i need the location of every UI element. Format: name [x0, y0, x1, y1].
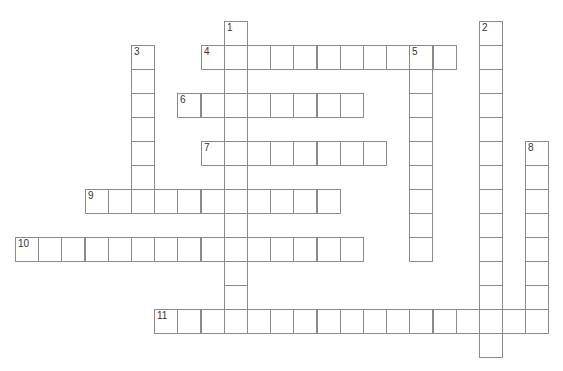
- crossword-cell[interactable]: [108, 189, 132, 214]
- crossword-cell[interactable]: [131, 141, 155, 166]
- crossword-cell[interactable]: [479, 141, 503, 166]
- crossword-cell[interactable]: [479, 237, 503, 262]
- crossword-cell[interactable]: [479, 213, 503, 238]
- crossword-cell[interactable]: [224, 285, 248, 310]
- crossword-cell[interactable]: [340, 45, 364, 70]
- crossword-cell[interactable]: [479, 333, 503, 358]
- crossword-cell[interactable]: [247, 45, 271, 70]
- crossword-cell[interactable]: [293, 189, 317, 214]
- crossword-cell[interactable]: [479, 261, 503, 286]
- crossword-cell[interactable]: [409, 93, 433, 118]
- crossword-cell[interactable]: [293, 141, 317, 166]
- crossword-cell[interactable]: [363, 309, 387, 334]
- crossword-cell[interactable]: [409, 69, 433, 94]
- crossword-cell[interactable]: [317, 45, 341, 70]
- crossword-cell[interactable]: [131, 69, 155, 94]
- crossword-cell[interactable]: [177, 189, 201, 214]
- crossword-cell[interactable]: [201, 309, 225, 334]
- crossword-cell[interactable]: 1: [224, 21, 248, 46]
- crossword-cell[interactable]: [224, 93, 248, 118]
- crossword-cell[interactable]: [224, 69, 248, 94]
- crossword-cell[interactable]: [525, 189, 549, 214]
- crossword-cell[interactable]: [525, 309, 549, 334]
- crossword-cell[interactable]: [131, 165, 155, 190]
- crossword-cell[interactable]: [433, 309, 457, 334]
- crossword-cell[interactable]: [340, 93, 364, 118]
- crossword-cell[interactable]: [479, 117, 503, 142]
- crossword-cell[interactable]: [409, 309, 433, 334]
- crossword-cell[interactable]: [293, 45, 317, 70]
- crossword-cell[interactable]: [270, 237, 294, 262]
- crossword-cell[interactable]: 6: [177, 93, 201, 118]
- crossword-cell[interactable]: [293, 237, 317, 262]
- crossword-cell[interactable]: [247, 93, 271, 118]
- crossword-cell[interactable]: [293, 309, 317, 334]
- crossword-cell[interactable]: [177, 309, 201, 334]
- crossword-cell[interactable]: [502, 309, 526, 334]
- crossword-cell[interactable]: [270, 141, 294, 166]
- crossword-cell[interactable]: [340, 309, 364, 334]
- crossword-cell[interactable]: [154, 189, 178, 214]
- crossword-cell[interactable]: [224, 141, 248, 166]
- crossword-cell[interactable]: [386, 45, 410, 70]
- crossword-cell[interactable]: [224, 189, 248, 214]
- crossword-cell[interactable]: [317, 309, 341, 334]
- crossword-cell[interactable]: [224, 309, 248, 334]
- crossword-cell[interactable]: [270, 45, 294, 70]
- crossword-cell[interactable]: 2: [479, 21, 503, 46]
- crossword-cell[interactable]: [409, 189, 433, 214]
- crossword-cell[interactable]: [409, 165, 433, 190]
- crossword-cell[interactable]: [525, 237, 549, 262]
- crossword-cell[interactable]: [479, 189, 503, 214]
- crossword-cell[interactable]: [201, 93, 225, 118]
- crossword-cell[interactable]: [340, 141, 364, 166]
- crossword-cell[interactable]: 7: [201, 141, 225, 166]
- crossword-cell[interactable]: [224, 165, 248, 190]
- crossword-cell[interactable]: [409, 213, 433, 238]
- crossword-cell[interactable]: [363, 141, 387, 166]
- crossword-cell[interactable]: [224, 261, 248, 286]
- crossword-cell[interactable]: [293, 93, 317, 118]
- crossword-cell[interactable]: [201, 237, 225, 262]
- crossword-cell[interactable]: 10: [15, 237, 39, 262]
- crossword-cell[interactable]: [108, 237, 132, 262]
- crossword-cell[interactable]: 8: [525, 141, 549, 166]
- crossword-cell[interactable]: [247, 141, 271, 166]
- crossword-cell[interactable]: [433, 45, 457, 70]
- crossword-cell[interactable]: [479, 165, 503, 190]
- crossword-cell[interactable]: [317, 237, 341, 262]
- crossword-cell[interactable]: [131, 237, 155, 262]
- crossword-cell[interactable]: 5: [409, 45, 433, 70]
- crossword-cell[interactable]: [479, 45, 503, 70]
- crossword-cell[interactable]: [131, 189, 155, 214]
- crossword-cell[interactable]: [224, 237, 248, 262]
- crossword-cell[interactable]: 9: [85, 189, 109, 214]
- crossword-cell[interactable]: [525, 165, 549, 190]
- crossword-cell[interactable]: [247, 309, 271, 334]
- crossword-cell[interactable]: [61, 237, 85, 262]
- crossword-cell[interactable]: [270, 189, 294, 214]
- crossword-cell[interactable]: [247, 189, 271, 214]
- crossword-cell[interactable]: [409, 141, 433, 166]
- crossword-cell[interactable]: [525, 285, 549, 310]
- crossword-cell[interactable]: [409, 117, 433, 142]
- crossword-cell[interactable]: [340, 237, 364, 262]
- crossword-cell[interactable]: 11: [154, 309, 178, 334]
- crossword-cell[interactable]: [479, 69, 503, 94]
- crossword-cell[interactable]: [363, 45, 387, 70]
- crossword-cell[interactable]: [38, 237, 62, 262]
- crossword-cell[interactable]: [525, 213, 549, 238]
- crossword-cell[interactable]: [154, 237, 178, 262]
- crossword-cell[interactable]: [270, 93, 294, 118]
- crossword-cell[interactable]: [409, 237, 433, 262]
- crossword-cell[interactable]: [317, 141, 341, 166]
- crossword-cell[interactable]: 4: [201, 45, 225, 70]
- crossword-cell[interactable]: [247, 237, 271, 262]
- crossword-cell[interactable]: [479, 309, 503, 334]
- crossword-cell[interactable]: [85, 237, 109, 262]
- crossword-cell[interactable]: [131, 93, 155, 118]
- crossword-cell[interactable]: [224, 45, 248, 70]
- crossword-cell[interactable]: [479, 93, 503, 118]
- crossword-cell[interactable]: [131, 117, 155, 142]
- crossword-cell[interactable]: [317, 189, 341, 214]
